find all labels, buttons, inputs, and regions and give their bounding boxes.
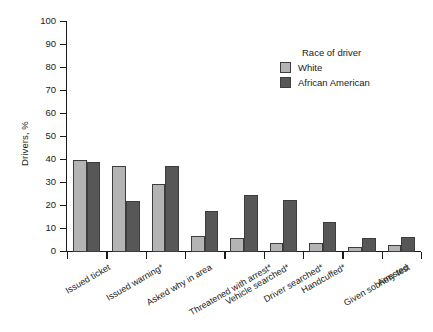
legend-entries: WhiteAfrican American bbox=[280, 62, 420, 88]
x-axis-tick-label: Issued ticket bbox=[63, 262, 111, 296]
legend-entry-label: White bbox=[298, 62, 322, 73]
bar bbox=[191, 236, 205, 252]
bar bbox=[270, 243, 284, 252]
bar bbox=[401, 237, 415, 252]
bar bbox=[323, 222, 337, 252]
bar bbox=[165, 166, 179, 252]
x-axis-tick bbox=[67, 252, 68, 259]
legend-entry: White bbox=[280, 62, 420, 73]
legend-entry-label: African American bbox=[298, 77, 370, 88]
bars-layer bbox=[0, 0, 433, 252]
bar bbox=[362, 238, 376, 252]
bar bbox=[309, 243, 323, 252]
bar bbox=[230, 238, 244, 252]
bar bbox=[126, 201, 140, 252]
x-axis-tick bbox=[146, 252, 147, 259]
legend-entry: African American bbox=[280, 77, 420, 88]
x-axis-tick bbox=[185, 252, 186, 259]
bar-chart: Drivers, % 0102030405060708090100 Issued… bbox=[0, 0, 433, 332]
x-axis-tick bbox=[264, 252, 265, 259]
x-axis-tick bbox=[224, 252, 225, 259]
x-axis-tick bbox=[303, 252, 304, 259]
bar bbox=[87, 162, 101, 252]
bar bbox=[152, 184, 166, 252]
legend-swatch-icon bbox=[280, 77, 291, 88]
bar bbox=[348, 247, 362, 252]
x-axis-tick bbox=[106, 252, 107, 259]
x-axis-tick bbox=[421, 252, 422, 259]
bar bbox=[205, 211, 219, 252]
bar bbox=[73, 160, 87, 252]
bar bbox=[388, 245, 402, 252]
x-axis-tick bbox=[382, 252, 383, 259]
bar bbox=[112, 166, 126, 252]
legend-title: Race of driver bbox=[302, 47, 420, 58]
bar bbox=[283, 200, 297, 252]
legend: Race of driver WhiteAfrican American bbox=[280, 47, 420, 92]
x-axis-tick-label: Arrested bbox=[376, 262, 410, 288]
x-axis-tick bbox=[342, 252, 343, 259]
legend-swatch-icon bbox=[280, 62, 291, 73]
bar bbox=[244, 195, 258, 253]
